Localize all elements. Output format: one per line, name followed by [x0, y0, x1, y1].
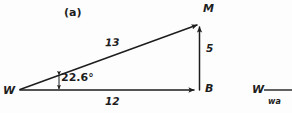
cropped-neighbor-label: W	[252, 84, 264, 95]
figure-part-label: (a)	[64, 7, 81, 18]
cropped-neighbor-sublabel: wa	[268, 98, 281, 106]
triangle-diagram-svg	[0, 0, 292, 113]
figure-container: (a) M W B 13 5 12 22.6° W wa	[0, 0, 292, 113]
vertex-label-m: M	[203, 3, 214, 14]
side-label-hypotenuse: 13	[105, 37, 120, 48]
vertex-label-w: W	[3, 85, 15, 96]
angle-label: 22.6°	[61, 72, 94, 83]
side-label-base: 12	[105, 96, 120, 107]
vertex-label-b: B	[205, 83, 213, 94]
edge-hypotenuse-WM	[20, 25, 197, 90]
side-label-vertical: 5	[206, 43, 213, 54]
